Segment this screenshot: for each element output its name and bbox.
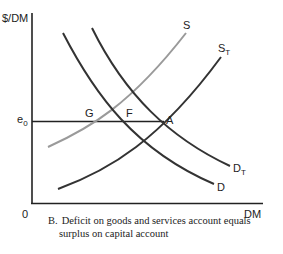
supply-curve-ST <box>58 57 221 189</box>
point-A-label: A <box>166 114 174 126</box>
label-DT: DT <box>233 162 246 177</box>
point-F-label: F <box>126 107 133 119</box>
label-ST: ST <box>218 42 230 57</box>
demand-curve-DT <box>92 28 230 166</box>
y-axis-label: $/DM <box>2 12 28 24</box>
point-G-label: G <box>85 107 94 119</box>
caption-letter: B. <box>48 214 59 227</box>
origin-label: 0 <box>22 208 28 220</box>
figure-caption: B. Deficit on goods and services account… <box>48 214 278 240</box>
e0-label: e0 <box>17 113 28 128</box>
label-S: S <box>183 19 190 31</box>
supply-curve-S <box>48 33 186 147</box>
caption-line-2: surplus on capital account <box>48 227 278 240</box>
caption-line-1: Deficit on goods and services account eq… <box>62 215 251 226</box>
label-D: D <box>217 181 225 193</box>
